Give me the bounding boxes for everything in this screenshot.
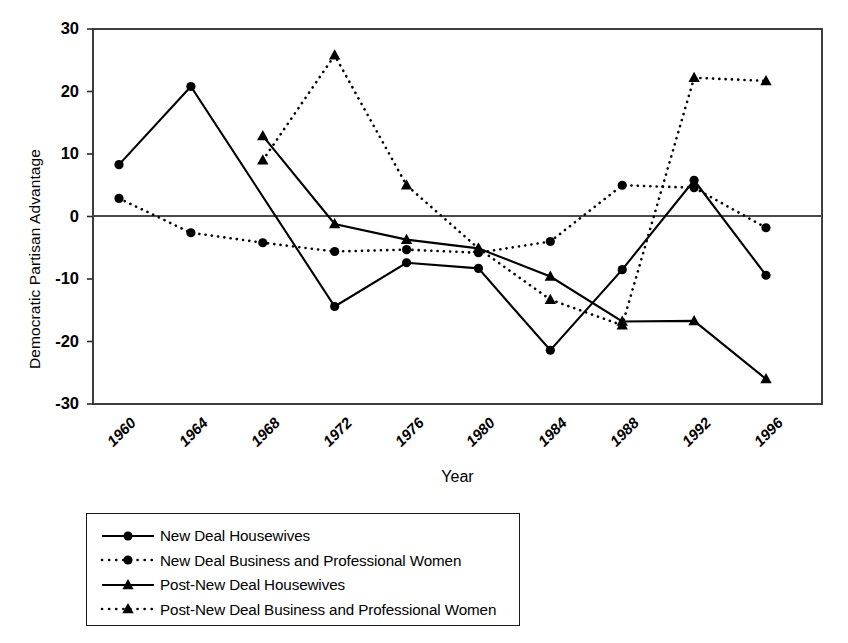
data-point-marker <box>690 183 699 192</box>
y-tick-label: -30 <box>31 394 79 413</box>
chart-figure: Democratic Partisan Advantage 3020100-10… <box>0 0 848 643</box>
series-1 <box>114 82 770 355</box>
data-point-marker <box>618 265 627 274</box>
legend-item[interactable]: New Deal Business and Professional Women <box>99 548 461 573</box>
data-point-marker <box>186 228 195 237</box>
y-tick-label: -10 <box>31 269 79 288</box>
y-tick-label: 0 <box>31 207 79 226</box>
legend-circle-icon <box>99 525 157 547</box>
legend-item[interactable]: Post-New Deal Housewives <box>99 572 345 597</box>
data-point-marker <box>546 346 555 355</box>
y-tick-label: -20 <box>31 332 79 351</box>
legend-marker <box>123 555 132 564</box>
series-2 <box>114 181 770 258</box>
legend-label: Post-New Deal Business and Professional … <box>160 601 496 618</box>
series-line <box>119 87 766 351</box>
data-point-marker <box>761 271 770 280</box>
data-point-marker <box>618 181 627 190</box>
legend-item[interactable]: Post-New Deal Business and Professional … <box>99 597 496 622</box>
y-tick-label: 30 <box>31 19 79 38</box>
legend-label: New Deal Business and Professional Women <box>160 552 461 569</box>
data-point-marker <box>545 294 556 304</box>
legend-triangle-icon <box>99 574 157 596</box>
series-line <box>119 185 766 253</box>
x-axis-title: Year <box>398 468 518 486</box>
legend-marker <box>123 531 132 540</box>
data-point-marker <box>330 302 339 311</box>
legend-label: New Deal Housewives <box>160 527 310 544</box>
legend-triangle-icon <box>99 598 157 620</box>
data-point-marker <box>186 82 195 91</box>
series-line <box>263 136 766 379</box>
data-point-marker <box>401 179 412 189</box>
legend-circle-icon <box>99 549 157 571</box>
data-point-marker <box>760 75 771 85</box>
data-point-marker <box>546 237 555 246</box>
legend-label: Post-New Deal Housewives <box>160 576 345 593</box>
legend-item[interactable]: New Deal Housewives <box>99 523 310 548</box>
data-point-marker <box>402 258 411 267</box>
y-tick-label: 10 <box>31 144 79 163</box>
data-point-marker <box>114 160 123 169</box>
data-point-marker <box>257 130 268 140</box>
data-point-marker <box>761 223 770 232</box>
data-point-marker <box>114 194 123 203</box>
data-point-marker <box>258 238 267 247</box>
y-tick-label: 20 <box>31 82 79 101</box>
data-point-marker <box>474 264 483 273</box>
series-3 <box>257 130 772 383</box>
data-point-marker <box>329 49 340 59</box>
data-point-marker <box>402 245 411 254</box>
chart-legend: New Deal HousewivesNew Deal Business and… <box>86 513 520 626</box>
data-point-marker <box>688 72 699 82</box>
data-point-marker <box>330 247 339 256</box>
